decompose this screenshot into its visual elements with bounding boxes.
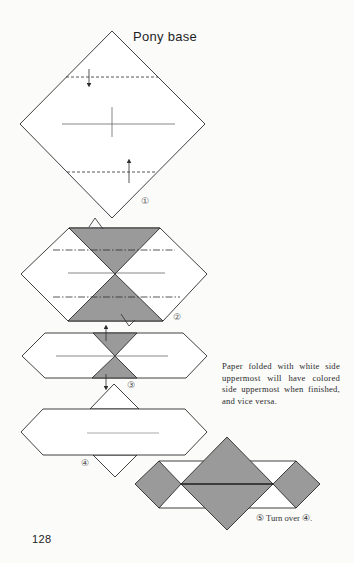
elongated-hexagon-paper <box>21 409 207 455</box>
bottom-flap-triangle <box>93 455 137 477</box>
step-3-label: ③ <box>127 380 135 390</box>
step-2-diagram <box>21 218 207 326</box>
step-5-caption: ⑤ Turn over ④. <box>256 513 312 523</box>
step-3-diagram <box>22 327 207 388</box>
pony-base-diagrams <box>0 0 354 563</box>
fold-behind-arrow-top <box>89 218 103 229</box>
origami-instruction-page: Pony base ① ② ③ ④ Paper folded with whit… <box>0 0 354 563</box>
page-number: 128 <box>32 533 52 545</box>
diagram-title: Pony base <box>133 29 197 44</box>
step-1-diagram <box>20 31 205 218</box>
color-side-note: Paper folded with white side uppermost w… <box>222 361 340 407</box>
step-2-label: ② <box>173 312 181 322</box>
square-paper-diamond <box>20 31 205 218</box>
step-1-label: ① <box>141 196 149 206</box>
step-4-label: ④ <box>81 458 89 468</box>
